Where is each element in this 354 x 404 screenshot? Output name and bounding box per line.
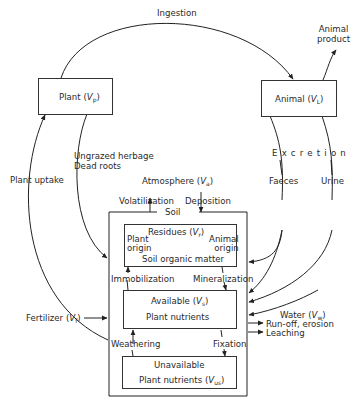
animal-subscript: L bbox=[317, 98, 320, 105]
soil-label: Soil bbox=[165, 207, 181, 217]
unavailable-node-label: Unavailable bbox=[154, 360, 205, 370]
flow-label-mineralization: Mineralization bbox=[193, 274, 253, 284]
animal-product-line1: Animal bbox=[317, 24, 350, 34]
flow-label-ungrazed-herbage: Ungrazed herbage bbox=[74, 151, 154, 161]
flow-label-faeces: Faeces bbox=[269, 176, 298, 186]
unavailable-line2: Plant nutrients (Vus) bbox=[139, 375, 224, 388]
unavailable-subscript: us bbox=[214, 379, 221, 386]
available-node: Available (Vs) Plant nutrients bbox=[123, 290, 237, 329]
flow-label-weathering: Weathering bbox=[111, 339, 160, 349]
residues-subscript: r bbox=[198, 231, 200, 238]
flow-label-fixation: Fixation bbox=[213, 339, 247, 349]
animal-label-text: Animal bbox=[275, 94, 305, 104]
flow-label-plant-uptake: Plant uptake bbox=[10, 175, 64, 185]
flow-label-ingestion: Ingestion bbox=[157, 8, 197, 18]
atmosphere-node: Atmosphere (Va) bbox=[142, 176, 213, 189]
plant-node: Plant (Vp) bbox=[38, 78, 113, 115]
atmosphere-subscript: a bbox=[206, 180, 210, 187]
animal-product-label: Animal product bbox=[317, 24, 350, 44]
flow-label-deposition: Deposition bbox=[185, 196, 231, 206]
flow-label-urine: Urine bbox=[321, 176, 344, 186]
atmosphere-label-text: Atmosphere bbox=[142, 176, 194, 186]
residues-label-text: Residues bbox=[148, 227, 186, 237]
animal-node-label: Animal (VL) bbox=[275, 94, 323, 107]
flow-label-leaching: Leaching bbox=[266, 328, 305, 338]
animal-node: Animal (VL) bbox=[261, 80, 337, 117]
plant-origin-line2: origin bbox=[127, 244, 151, 253]
animal-product-line2: product bbox=[317, 34, 350, 44]
animal-origin-label: Animal origin bbox=[209, 235, 239, 253]
nutrient-cycle-diagram: Ingestion Animal product Plant (Vp) Anim… bbox=[0, 0, 354, 404]
available-line2: Plant nutrients bbox=[146, 312, 209, 322]
available-label-text: Available bbox=[151, 296, 190, 306]
fertilizer-label-text: Fertilizer bbox=[26, 313, 63, 323]
plant-label-text: Plant bbox=[59, 92, 81, 102]
animal-origin-line2: origin bbox=[209, 244, 239, 253]
residues-node: Residues (Vr) Plant origin Animal origin… bbox=[124, 224, 237, 267]
plant-subscript: p bbox=[93, 96, 97, 103]
unavailable-line2-text: Plant nutrients bbox=[139, 375, 202, 385]
flow-label-excretion: Excretion bbox=[272, 148, 350, 158]
plant-node-label: Plant (Vp) bbox=[59, 92, 100, 105]
flow-arrows bbox=[0, 0, 354, 404]
available-node-label: Available (Vs) bbox=[151, 296, 208, 309]
fertilizer-subscript: f bbox=[75, 317, 77, 324]
soil-organic-matter-label: Soil organic matter bbox=[142, 254, 224, 264]
residues-node-label: Residues (Vr) bbox=[148, 227, 204, 240]
flow-label-immobilization: Immobilization bbox=[111, 274, 174, 284]
fertilizer-source: Fertilizer (Vf) bbox=[26, 313, 81, 326]
unavailable-node: Unavailable Plant nutrients (Vus) bbox=[122, 356, 237, 389]
flow-label-volatilization: Volatilization bbox=[119, 196, 174, 206]
plant-origin-label: Plant origin bbox=[127, 235, 151, 253]
flow-label-dead-roots: Dead roots bbox=[74, 161, 121, 171]
available-subscript: s bbox=[202, 300, 205, 307]
